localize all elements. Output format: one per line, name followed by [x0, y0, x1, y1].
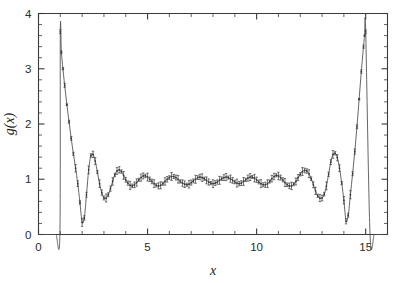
data-point [59, 31, 61, 33]
data-point [188, 183, 190, 185]
x-axis-major-ticks [39, 14, 366, 235]
data-point [79, 202, 81, 204]
data-point [330, 161, 332, 163]
data-point [343, 199, 345, 201]
data-point [142, 175, 144, 177]
data-point [112, 181, 114, 183]
data-point [123, 175, 125, 177]
data-point [365, 31, 367, 33]
data-point [64, 84, 66, 86]
data-point [304, 170, 306, 172]
data-point [105, 197, 107, 199]
x-tick-label: 0 [35, 241, 41, 253]
data-point [360, 71, 362, 73]
data-point [275, 175, 277, 177]
data-point [354, 151, 356, 153]
data-point [227, 177, 229, 179]
data-point [121, 171, 123, 173]
data-point [358, 98, 360, 100]
data-point [286, 184, 288, 186]
data-point [179, 181, 181, 183]
data-point [278, 175, 280, 177]
data-point [267, 183, 269, 185]
data-point [364, 35, 366, 37]
x-axis-label: x [209, 263, 217, 278]
data-point [221, 178, 223, 180]
data-point [225, 176, 227, 178]
data-point [326, 185, 328, 187]
data-point [149, 178, 151, 180]
data-point [193, 180, 195, 182]
data-point [262, 184, 264, 186]
data-point [62, 68, 64, 70]
data-point [199, 176, 201, 178]
data-point [315, 190, 317, 192]
data-point [236, 182, 238, 184]
data-point [166, 178, 168, 180]
data-point [256, 179, 258, 181]
data-point [291, 185, 293, 187]
data-point [254, 177, 256, 179]
data-point [158, 185, 160, 187]
data-point [212, 183, 214, 185]
y-axis-label: g(x) [2, 112, 18, 135]
data-point [234, 181, 236, 183]
data-point [147, 176, 149, 178]
y-tick-label: 0 [25, 229, 31, 241]
data-point [94, 160, 96, 162]
data-point [145, 175, 147, 177]
data-point [310, 178, 312, 180]
data-point [118, 169, 120, 171]
data-point [90, 155, 92, 157]
y-axis-major-ticks [39, 14, 388, 235]
data-point [347, 214, 349, 216]
data-point [328, 173, 330, 175]
data-point [75, 167, 77, 169]
data-point [251, 176, 253, 178]
data-point [317, 195, 319, 197]
y-axis-minor-ticks [39, 25, 388, 224]
data-point [295, 181, 297, 183]
data-point [173, 176, 175, 178]
data-point [171, 176, 173, 178]
y-tick-label: 4 [25, 8, 32, 20]
plot-frame [39, 14, 388, 235]
data-point [131, 185, 133, 187]
data-point [81, 221, 83, 223]
data-point [97, 171, 99, 173]
chart-figure: 051015 01234 x g(x) [0, 0, 407, 283]
data-point [169, 177, 171, 179]
data-point [247, 177, 249, 179]
data-point [92, 154, 94, 156]
data-point [210, 182, 212, 184]
data-point [73, 153, 75, 155]
data-point [280, 177, 282, 179]
data-point [345, 220, 347, 222]
x-axis-tick-labels: 051015 [35, 241, 372, 253]
data-point [293, 183, 295, 185]
data-curve [39, 17, 388, 249]
data-point [336, 157, 338, 159]
data-point [155, 184, 157, 186]
data-point [186, 184, 188, 186]
data-point [356, 126, 358, 128]
data-point [184, 183, 186, 185]
x-tick-label: 10 [250, 241, 263, 253]
data-point [83, 217, 85, 219]
data-point [243, 181, 245, 183]
data-point [269, 181, 271, 183]
data-point [319, 197, 321, 199]
data-point [162, 183, 164, 185]
data-point [88, 169, 90, 171]
data-point [160, 184, 162, 186]
gx-radial-distribution-plot: 051015 01234 x g(x) [0, 0, 407, 283]
data-point [151, 181, 153, 183]
data-point [134, 184, 136, 186]
data-point [195, 178, 197, 180]
data-point [217, 181, 219, 183]
data-point [136, 182, 138, 184]
data-point [245, 179, 247, 181]
data-point [114, 174, 116, 176]
data-point [101, 192, 103, 194]
data-point [61, 51, 63, 53]
